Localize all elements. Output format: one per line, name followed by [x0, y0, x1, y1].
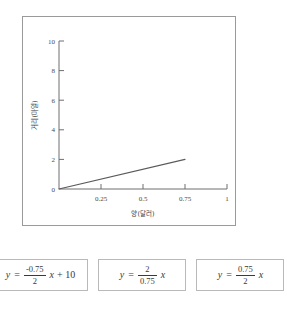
- answer-options-row: y = -0.75 2 x + 10 y = 2 0.75 x y =: [0, 259, 287, 293]
- formula-c-numerator: 0.75: [236, 265, 255, 275]
- y-tick-label-8: 8: [52, 67, 56, 75]
- formula-b-tail: x: [158, 270, 165, 280]
- data-line: [59, 159, 185, 189]
- answer-option-b[interactable]: y = 2 0.75 x: [98, 259, 186, 291]
- formula-b-denominator: 0.75: [138, 276, 157, 286]
- x-tick-label-025: 0.25: [95, 195, 108, 203]
- y-tick-label-0: 0: [52, 186, 56, 194]
- formula-a-tail: x: [47, 270, 54, 280]
- chart-panel: 10 8 6 4 2 0 0.25 0.5 0.75 1 거리(마일) 양(달러…: [22, 16, 236, 226]
- formula-c-fraction: 0.75 2: [235, 265, 256, 286]
- formula-a-numerator: -0.75: [24, 265, 46, 275]
- y-axis-title: 거리(마일): [30, 100, 39, 129]
- formula-c-equals: =: [223, 270, 235, 280]
- x-axis-title: 양(달러): [131, 209, 154, 218]
- answer-option-c[interactable]: y = 0.75 2 x: [196, 259, 284, 291]
- x-tick-label-05: 0.5: [139, 195, 148, 203]
- y-tick-label-6: 6: [52, 97, 56, 105]
- line-chart: 10 8 6 4 2 0 0.25 0.5 0.75 1 거리(마일) 양(달러…: [23, 17, 237, 227]
- formula-c-tail: x: [256, 270, 263, 280]
- formula-a-denominator: 2: [31, 276, 39, 286]
- x-tick-label-075: 0.75: [179, 195, 192, 203]
- formula-a-constant: + 10: [54, 270, 75, 280]
- x-axis-ticks: [101, 184, 227, 189]
- formula-b-numerator: 2: [143, 265, 151, 275]
- formula-a-fraction: -0.75 2: [23, 265, 47, 286]
- formula-c-denominator: 2: [241, 276, 249, 286]
- formula-a: y = -0.75 2 x + 10: [5, 265, 75, 286]
- formula-b-equals: =: [125, 270, 137, 280]
- y-tick-label-4: 4: [52, 126, 56, 134]
- y-axis-ticks: [59, 41, 64, 159]
- formula-b-fraction: 2 0.75: [137, 265, 158, 286]
- formula-a-equals: =: [11, 270, 23, 280]
- y-tick-label-2: 2: [52, 156, 56, 164]
- formula-c: y = 0.75 2 x: [217, 265, 263, 286]
- y-tick-label-10: 10: [48, 38, 56, 46]
- x-tick-label-1: 1: [225, 195, 229, 203]
- answer-option-a[interactable]: y = -0.75 2 x + 10: [0, 259, 88, 291]
- formula-b: y = 2 0.75 x: [119, 265, 165, 286]
